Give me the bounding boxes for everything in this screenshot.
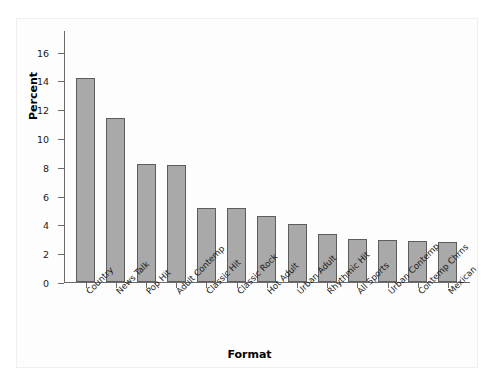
y-axis-tick-label: 16 [37,47,49,58]
y-axis-spine [64,31,65,283]
y-axis-tick: 6 [58,197,64,198]
y-axis-tick-label: 0 [43,278,49,289]
y-axis-tick-label: 14 [37,76,49,87]
y-axis-tick: 10 [58,139,64,140]
y-axis-tick: 2 [58,254,64,255]
bar [106,118,125,282]
y-axis-tick-label: 6 [43,191,49,202]
bar [76,78,95,282]
y-axis-tick-label: 12 [37,105,49,116]
y-axis-tick: 14 [58,81,64,82]
y-axis-tick-label: 8 [43,162,49,173]
y-axis-tick: 12 [58,110,64,111]
bar-chart-figure: Percent 0246810121416 CountryNews TalkPo… [0,0,499,383]
y-axis-tick-label: 2 [43,249,49,260]
y-axis-tick: 4 [58,225,64,226]
y-axis-tick: 0 [58,283,64,284]
y-axis-tick-label: 4 [43,220,49,231]
y-axis-tick: 8 [58,168,64,169]
y-axis-tick: 16 [58,53,64,54]
plot-area: 0246810121416 CountryNews TalkPop HitAdu… [64,31,470,283]
bar [167,165,186,282]
y-axis-tick-label: 10 [37,134,49,145]
x-axis-title: Format [0,348,499,361]
